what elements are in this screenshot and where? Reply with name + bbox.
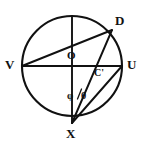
angle-label-phi: φ (67, 91, 73, 101)
label-point-c-prime: C' (94, 68, 104, 78)
label-vertex-d: D (115, 14, 124, 27)
angle-label-theta: θ (81, 91, 86, 101)
circle-geometry-figure: O V U X D C' φ θ (0, 0, 146, 150)
label-vertex-x: X (66, 127, 75, 140)
label-center-o: O (67, 50, 76, 61)
label-vertex-v: V (5, 58, 14, 71)
label-vertex-u: U (127, 58, 136, 71)
